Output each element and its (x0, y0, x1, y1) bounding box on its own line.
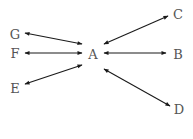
edge-a-e (25, 65, 82, 84)
star-diagram: A B C D E F G (0, 0, 193, 139)
node-f-label: F (10, 47, 19, 60)
node-e-label: E (10, 82, 20, 95)
edge-a-c (104, 16, 168, 44)
node-b-label: B (173, 48, 183, 61)
node-c-label: C (173, 8, 183, 21)
node-a-label: A (88, 48, 97, 61)
node-d-label: D (174, 103, 184, 116)
edge-a-d (104, 69, 170, 106)
edges-layer (0, 0, 193, 139)
node-g-label: G (10, 28, 20, 41)
edge-a-g (25, 33, 82, 44)
